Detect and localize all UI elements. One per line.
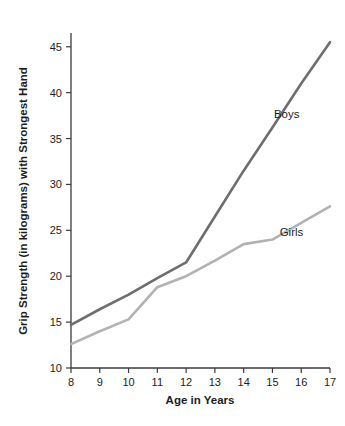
x-tick-label-14: 14: [238, 376, 250, 388]
y-tick-label-25: 25: [50, 224, 62, 236]
x-axis-title: Age in Years: [166, 394, 235, 406]
y-axis-ticks: [66, 47, 71, 368]
x-tick-label-10: 10: [122, 376, 134, 388]
series-annotations: BoysGirls: [274, 108, 304, 237]
grip-strength-line-chart: 1015202530354045 891011121314151617 Boys…: [0, 0, 345, 426]
x-tick-label-9: 9: [97, 376, 103, 388]
x-tick-label-8: 8: [68, 376, 74, 388]
y-tick-label-45: 45: [50, 41, 62, 53]
x-axis: 891011121314151617: [68, 368, 336, 388]
x-tick-label-15: 15: [266, 376, 278, 388]
chart-canvas: 1015202530354045 891011121314151617 Boys…: [0, 0, 345, 426]
y-tick-label-35: 35: [50, 133, 62, 145]
x-axis-ticks: [71, 368, 330, 373]
y-axis: 1015202530354045: [50, 33, 71, 374]
x-tick-label-13: 13: [209, 376, 221, 388]
data-series-group: [71, 42, 330, 344]
y-tick-label-30: 30: [50, 178, 62, 190]
y-tick-label-15: 15: [50, 316, 62, 328]
y-axis-title: Grip Strength (in kilograms) with Strong…: [17, 67, 29, 335]
x-tick-label-16: 16: [295, 376, 307, 388]
x-tick-label-12: 12: [180, 376, 192, 388]
y-tick-label-40: 40: [50, 87, 62, 99]
x-tick-label-17: 17: [324, 376, 336, 388]
y-tick-label-10: 10: [50, 362, 62, 374]
y-tick-label-20: 20: [50, 270, 62, 282]
series-label-girls: Girls: [280, 226, 304, 238]
x-axis-tick-labels: 891011121314151617: [68, 376, 336, 388]
series-label-boys: Boys: [274, 108, 300, 120]
y-axis-tick-labels: 1015202530354045: [50, 41, 62, 374]
series-line-boys: [71, 42, 330, 325]
x-tick-label-11: 11: [152, 376, 163, 388]
